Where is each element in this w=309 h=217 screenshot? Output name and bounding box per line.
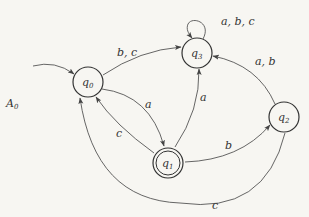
edge-label-q2-q3: a, b xyxy=(255,55,276,68)
edge-q0-q3 xyxy=(103,47,181,75)
edge-label-q3-loop: a, b, c xyxy=(221,15,255,28)
edge-label-q1-q3: a xyxy=(200,91,207,104)
edge-label-q2-q0: c xyxy=(212,199,218,212)
automaton-diagram: A0 b, c a, b, c a c a b a, b c q0 q1 q2 … xyxy=(0,0,309,217)
edge-q3-loop xyxy=(187,20,205,39)
edge-q0-q1 xyxy=(102,89,164,146)
edge-q1-q3 xyxy=(175,69,199,147)
state-q0: q0 xyxy=(73,67,103,97)
edge-label-q0-q3: b, c xyxy=(117,46,137,59)
state-q1: q1 xyxy=(153,148,183,178)
initial-arrow xyxy=(33,64,74,74)
edge-label-q0-q1: a xyxy=(145,98,152,111)
edge-label-q1-q0: c xyxy=(116,127,122,140)
edge-q2-q0 xyxy=(80,98,285,205)
state-q2: q2 xyxy=(269,102,299,132)
state-q3: q3 xyxy=(182,38,212,68)
edge-label-q1-q2: b xyxy=(225,139,232,152)
automaton-name: A0 xyxy=(5,97,19,111)
